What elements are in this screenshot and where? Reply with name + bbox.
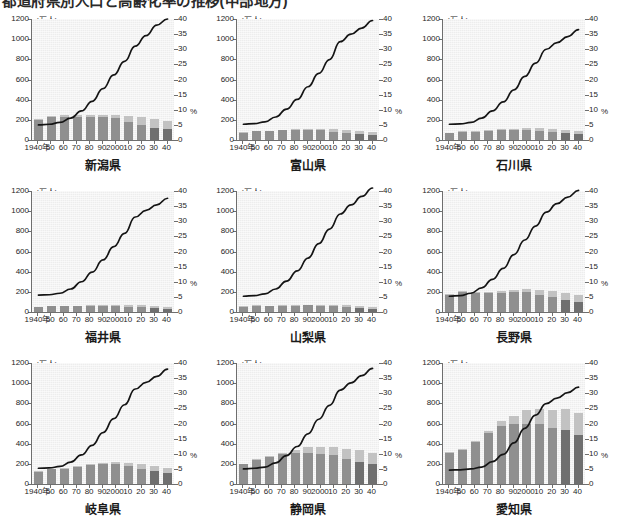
left-axis-labels: 120010008006004002000	[411, 191, 440, 312]
right-axis-unit-label: %	[395, 451, 402, 460]
x-axis-tick-label: 70	[72, 315, 81, 324]
x-axis-tick-label: 30	[560, 143, 569, 152]
left-axis-tick-label: 200	[16, 116, 29, 124]
x-axis-tick-label: 30	[560, 487, 569, 496]
x-axis-tick-label: 20	[341, 143, 350, 152]
panel-title: 愛知県	[411, 500, 616, 517]
right-axis-tick-label: 15	[589, 91, 598, 99]
right-axis-unit-label: %	[395, 279, 402, 288]
right-axis-tick-label: 25	[383, 232, 392, 240]
x-axis-labels: 1940年5060708090200010203040	[442, 315, 585, 327]
aging-rate-line-chart	[443, 19, 585, 140]
line-path	[38, 369, 167, 468]
right-axis-tick-label: 25	[178, 404, 187, 412]
left-axis-labels: 120010008006004002000	[205, 19, 234, 140]
right-axis-tick-label: 5	[589, 465, 593, 473]
right-axis-tick-label: 35	[589, 30, 598, 38]
left-axis-tick-label: 200	[221, 288, 234, 296]
x-axis-tick-label: 60	[470, 487, 479, 496]
x-axis-tick-label: 60	[59, 315, 68, 324]
right-axis-labels: 4035302520151050	[589, 363, 611, 484]
plot-area	[31, 191, 174, 313]
right-axis-tick-label: 40	[178, 187, 187, 195]
right-axis-tick-label: 40	[383, 359, 392, 367]
x-axis-tick-label: 50	[46, 143, 55, 152]
left-axis-labels: 120010008006004002000	[411, 19, 440, 140]
panel-title: 静岡県	[205, 500, 410, 517]
x-axis-tick-label: 10	[328, 315, 337, 324]
left-axis-tick-label: 600	[16, 248, 29, 256]
x-axis-tick-label: 30	[149, 487, 158, 496]
right-axis-tick-label: 35	[589, 202, 598, 210]
x-axis-tick-label: 70	[277, 143, 286, 152]
x-axis-tick-label: 30	[354, 487, 363, 496]
x-axis-labels: 1940年5060708090200010203040	[236, 143, 379, 155]
right-axis-tick-label: 5	[178, 465, 182, 473]
left-axis-tick-label: 400	[16, 268, 29, 276]
right-axis-tick-label: 10	[178, 278, 187, 286]
right-axis-tick-label: 30	[589, 45, 598, 53]
x-axis-tick-label: 80	[85, 315, 94, 324]
left-axis-tick-label: 800	[221, 55, 234, 63]
x-axis-tick-label: 20	[136, 487, 145, 496]
x-axis-tick-label: 2000	[106, 143, 124, 152]
x-axis-tick-label: 60	[264, 315, 273, 324]
x-axis-tick-label: 2000	[517, 315, 535, 324]
plot-area	[31, 19, 174, 141]
x-axis-tick-label: 40	[367, 143, 376, 152]
right-axis-tick-label: 40	[178, 15, 187, 23]
right-axis-tick-label: 15	[383, 263, 392, 271]
right-axis-tick-label: 15	[178, 263, 187, 271]
right-axis-tick-label: 20	[589, 76, 598, 84]
x-axis-tick-label: 50	[457, 487, 466, 496]
right-axis-unit-label: %	[601, 107, 608, 116]
x-axis-tick-label: 70	[72, 143, 81, 152]
x-axis-tick-label: 10	[123, 487, 132, 496]
x-axis-tick-label: 80	[290, 315, 299, 324]
x-axis-tick-label: 80	[496, 487, 505, 496]
line-path	[243, 21, 372, 125]
left-axis-tick-label: 600	[16, 420, 29, 428]
x-axis-tick-label: 10	[534, 487, 543, 496]
x-axis-tick-label: 30	[354, 315, 363, 324]
right-axis-tick-label: 5	[383, 465, 387, 473]
x-axis-tick-label: 20	[547, 487, 556, 496]
left-axis-tick-label: 200	[221, 116, 234, 124]
right-axis-tick-label: 15	[589, 263, 598, 271]
x-axis-tick-label: 60	[59, 143, 68, 152]
chart-panel: 1200100080060040020004035302520151050(万人…	[205, 9, 410, 180]
left-axis-tick-label: 1200	[422, 359, 440, 367]
right-axis-tick-label: 5	[589, 293, 593, 301]
right-axis-labels: 4035302520151050	[178, 363, 200, 484]
left-axis-labels: 120010008006004002000	[205, 191, 234, 312]
chart-panel: 1200100080060040020004035302520151050(万人…	[205, 181, 410, 352]
left-axis-tick-label: 1200	[11, 15, 29, 23]
right-axis-tick-label: 5	[178, 121, 182, 129]
x-axis-tick-label: 40	[162, 315, 171, 324]
right-axis-unit-label: %	[190, 279, 197, 288]
left-axis-tick-label: 800	[427, 399, 440, 407]
left-axis-tick-label: 1200	[11, 359, 29, 367]
left-axis-labels: 120010008006004002000	[0, 191, 29, 312]
line-path	[38, 19, 167, 125]
x-axis-tick-label: 20	[547, 143, 556, 152]
x-axis-tick-label: 70	[277, 487, 286, 496]
aging-rate-line-chart	[32, 363, 174, 484]
x-axis-tick-label: 50	[457, 143, 466, 152]
right-axis-labels: 4035302520151050	[383, 19, 405, 140]
x-axis-tick-label: 80	[496, 315, 505, 324]
x-axis-tick-label: 80	[85, 143, 94, 152]
left-axis-tick-label: 400	[427, 268, 440, 276]
right-axis-tick-label: 0	[178, 308, 182, 316]
page-heading-strip: 都道府県別人口と高齢化率の推移(中部地方)	[0, 0, 622, 9]
panel-title: 富山県	[205, 156, 410, 173]
left-axis-labels: 120010008006004002000	[205, 363, 234, 484]
chart-panel: 1200100080060040020004035302520151050(万人…	[0, 353, 205, 522]
right-axis-tick-label: 35	[589, 374, 598, 382]
x-axis-tick-label: 80	[85, 487, 94, 496]
right-axis-tick-label: 10	[589, 450, 598, 458]
x-axis-tick-label: 40	[573, 487, 582, 496]
right-axis-tick-label: 0	[589, 308, 593, 316]
left-axis-tick-label: 400	[221, 268, 234, 276]
right-axis-tick-label: 25	[589, 232, 598, 240]
